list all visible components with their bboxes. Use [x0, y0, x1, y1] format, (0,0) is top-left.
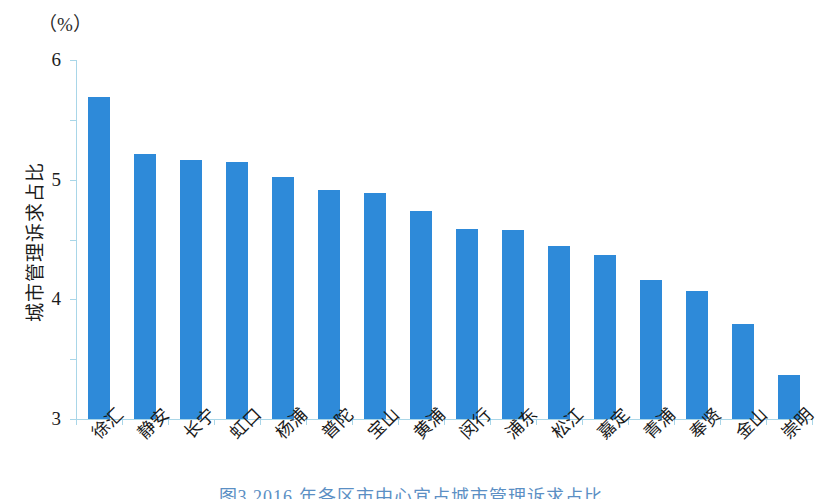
y-tick-mark: 4 [70, 180, 76, 181]
bar [318, 190, 340, 419]
figure-caption: 图3 2016 年各区市中心宜占城市管理诉求占比 [0, 482, 821, 499]
y-axis-title: 城市管理诉求占比 [20, 142, 47, 342]
plot-area: 0123456 徐汇静安长宁虹口杨浦普陀宝山黄浦闵行浦东松江嘉定青浦奉贤金山崇明 [76, 60, 812, 419]
bar [272, 177, 294, 419]
bar [88, 97, 110, 419]
y-tick-mark: 1 [70, 359, 76, 360]
bar [548, 246, 570, 419]
x-tick-mark [76, 419, 77, 425]
bar [456, 229, 478, 419]
y-tick-mark: 2 [70, 299, 76, 300]
y-tick-label: 5 [52, 169, 62, 191]
bar [134, 154, 156, 419]
y-tick-mark: 5 [70, 120, 76, 121]
y-axis-line [76, 60, 77, 419]
y-tick-mark: 6 [70, 60, 76, 61]
figure-container: （%） 城市管理诉求占比 0123456 徐汇静安长宁虹口杨浦普陀宝山黄浦闵行浦… [0, 0, 821, 499]
bar [364, 193, 386, 419]
bar [410, 211, 432, 419]
y-tick-mark: 3 [70, 240, 76, 241]
bar [180, 160, 202, 419]
y-tick-label: 6 [52, 49, 62, 71]
y-tick-label: 3 [52, 408, 62, 430]
y-tick-label: 4 [52, 288, 62, 310]
y-axis-unit-label: （%） [38, 9, 92, 36]
bar [502, 230, 524, 419]
bar [594, 255, 616, 419]
bar [640, 280, 662, 419]
bar [226, 162, 248, 419]
bar [686, 291, 708, 419]
